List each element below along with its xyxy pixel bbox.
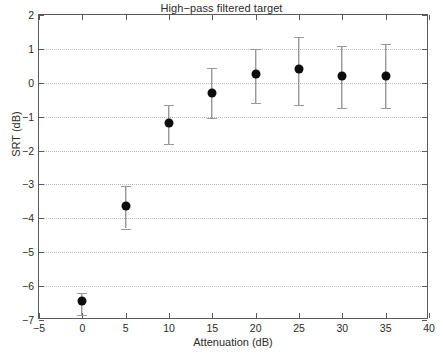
x-axis-label: Attenuation (dB) [38, 336, 428, 348]
error-bar-cap [77, 293, 87, 294]
y-tick-label: −1 [22, 111, 34, 123]
chart-title: High−pass filtered target [0, 2, 443, 14]
error-bar-cap [381, 108, 391, 109]
data-marker [208, 88, 217, 97]
error-bar-cap [121, 229, 131, 230]
y-tick-label: −2 [22, 145, 34, 157]
x-tick-label: 15 [206, 322, 218, 334]
y-tick-label: −4 [22, 212, 34, 224]
plot-area: −7−6−5−4−3−2−1012 −50510152025303540 [38, 14, 428, 319]
x-tick-label: 30 [336, 322, 348, 334]
error-bar-cap [207, 68, 217, 69]
y-tick-label: 1 [28, 43, 34, 55]
error-bar-cap [337, 108, 347, 109]
y-tick-label: 2 [28, 9, 34, 21]
chart-figure: High−pass filtered target −7−6−5−4−3−2−1… [0, 0, 443, 356]
data-marker [251, 70, 260, 79]
error-bar-cap [251, 49, 261, 50]
error-bar-cap [207, 118, 217, 119]
y-axis-label: SRT (dB) [10, 94, 22, 174]
y-tick-label: −6 [22, 280, 34, 292]
y-tick-mark [39, 320, 44, 321]
data-marker [121, 202, 130, 211]
y-tick-label: −5 [22, 246, 34, 258]
x-tick-label: 35 [380, 322, 392, 334]
error-bar-cap [164, 105, 174, 106]
x-tick-label: −5 [33, 322, 45, 334]
x-tick-label: 25 [293, 322, 305, 334]
error-bar-cap [251, 103, 261, 104]
y-tick-label: 0 [28, 77, 34, 89]
x-tick-label: 0 [79, 322, 85, 334]
x-tick-label: 40 [423, 322, 435, 334]
error-bar-cap [337, 46, 347, 47]
error-bar-cap [381, 44, 391, 45]
error-bar-cap [294, 105, 304, 106]
x-tick-mark [429, 313, 430, 318]
y-tick-mark [422, 320, 427, 321]
error-bar-cap [164, 144, 174, 145]
data-marker [338, 72, 347, 81]
data-marker [381, 72, 390, 81]
x-tick-label: 20 [250, 322, 262, 334]
data-marker [165, 119, 174, 128]
error-bar-cap [77, 315, 87, 316]
data-marker [78, 297, 87, 306]
x-tick-mark [429, 15, 430, 20]
y-tick-label: −3 [22, 178, 34, 190]
error-bar-cap [294, 37, 304, 38]
error-bar-cap [121, 186, 131, 187]
data-marker [295, 65, 304, 74]
x-tick-label: 5 [123, 322, 129, 334]
data-points-layer [39, 15, 427, 318]
x-tick-label: 10 [163, 322, 175, 334]
